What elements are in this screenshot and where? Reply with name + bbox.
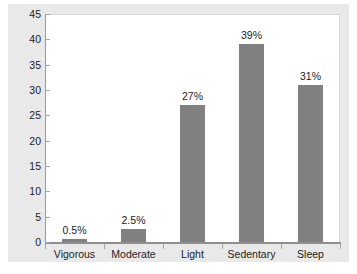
y-axis-tick-label: 15	[13, 161, 41, 172]
y-axis-tick-label: 45	[13, 9, 41, 20]
y-axis-tick-label-wrap: 40	[8, 39, 41, 40]
y-axis-tick-label: 20	[13, 136, 41, 147]
y-axis-tick-label-wrap: 20	[8, 141, 41, 142]
y-axis-tick-label-wrap: 30	[8, 90, 41, 91]
y-axis-tick-label: 30	[13, 85, 41, 96]
bar[interactable]	[121, 229, 146, 242]
bar[interactable]	[298, 85, 323, 242]
bar[interactable]	[62, 239, 87, 242]
x-axis-line	[45, 242, 341, 244]
y-axis-tick-label-wrap: 35	[8, 65, 41, 66]
bar-value-label: 0.5%	[45, 225, 105, 236]
bar-chart-figure: 051015202530354045 0.5%Vigorous2.5%Moder…	[8, 4, 349, 262]
bar-value-label: 31%	[281, 71, 341, 82]
y-axis-tick-label-wrap: 25	[8, 115, 41, 116]
x-axis-category-label: Sleep	[266, 249, 356, 260]
y-axis-tick-label-wrap: 10	[8, 191, 41, 192]
y-axis-tick-label: 10	[13, 186, 41, 197]
bar-value-label: 27%	[163, 91, 223, 102]
y-axis-tick-label: 5	[13, 212, 41, 223]
y-axis-tick-label: 35	[13, 60, 41, 71]
y-axis-tick-label: 25	[13, 110, 41, 121]
y-axis-tick-label-wrap: 45	[8, 14, 41, 15]
y-axis-tick	[45, 242, 50, 243]
y-axis-tick-label: 40	[13, 34, 41, 45]
bar[interactable]	[180, 105, 205, 242]
bar-value-label: 2.5%	[104, 215, 164, 226]
bar-value-label: 39%	[222, 30, 282, 41]
y-axis-tick-label-wrap: 5	[8, 217, 41, 218]
bar[interactable]	[239, 44, 264, 242]
bars-layer	[46, 14, 340, 242]
y-axis-tick-label: 0	[13, 237, 41, 248]
y-axis-tick-label-wrap: 0	[8, 242, 41, 243]
y-axis-tick-label-wrap: 15	[8, 166, 41, 167]
